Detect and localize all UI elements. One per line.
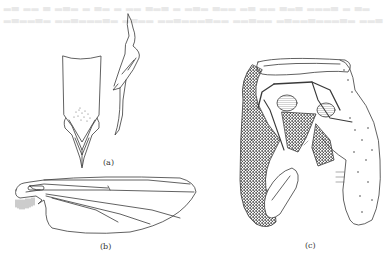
- panel-label-b: (b): [100, 242, 111, 251]
- panel-a-hypopygium: [63, 56, 101, 168]
- panel-b-wing: [16, 177, 197, 233]
- panel-a-appendage: [113, 14, 139, 135]
- panel-c-genitalia: [240, 58, 380, 226]
- panel-label-c: (c): [305, 241, 316, 250]
- panel-label-a: (a): [103, 158, 114, 167]
- figure-drawing: [0, 0, 391, 260]
